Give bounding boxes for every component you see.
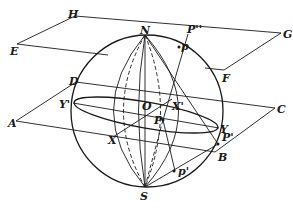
label-A: A (7, 117, 17, 130)
label-C: C (277, 103, 286, 116)
label-N: N (139, 24, 151, 37)
label-X: X (107, 134, 117, 147)
label-P: P (153, 114, 163, 127)
label-Y-prime: Y' (59, 98, 70, 111)
stereographic-projection-diagram: H G E F N S D A C B Y' Y O X' X P P' P''… (0, 0, 293, 208)
label-E: E (9, 45, 19, 58)
equatorial-plane (16, 82, 275, 152)
label-P-prime: P' (221, 131, 234, 144)
label-P-double-prime: P'' (186, 23, 202, 36)
label-O: O (142, 100, 152, 113)
label-B: B (217, 151, 227, 164)
label-H: H (67, 8, 79, 21)
label-X-prime: X' (171, 100, 184, 113)
label-S: S (140, 190, 148, 203)
label-D: D (68, 75, 79, 88)
label-F: F (221, 72, 231, 85)
label-p: p (181, 40, 189, 53)
diagram-svg: H G E F N S D A C B Y' Y O X' X P P' P''… (0, 0, 293, 208)
label-G: G (283, 28, 292, 41)
label-p-prime: p' (178, 165, 189, 178)
